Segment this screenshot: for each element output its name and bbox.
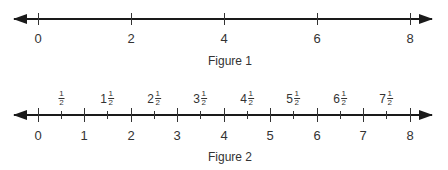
figure-1: 0 2 4 6 8 Figure 1	[0, 0, 448, 75]
half-label: 312	[193, 90, 207, 107]
arrow-right-icon	[419, 110, 433, 120]
tick	[131, 108, 132, 122]
tick-label: 3	[173, 128, 180, 143]
tick	[363, 108, 364, 122]
tick-label: 5	[266, 128, 273, 143]
figure-caption: Figure 2	[208, 150, 252, 164]
tick-label: 2	[127, 128, 134, 143]
figure-caption: Figure 1	[208, 54, 252, 68]
half-tick	[340, 111, 341, 119]
tick	[84, 108, 85, 122]
tick	[177, 108, 178, 122]
tick	[410, 108, 411, 122]
half-tick	[386, 111, 387, 119]
half-tick	[107, 111, 108, 119]
tick-label: 2	[127, 31, 134, 46]
tick-label: 0	[34, 31, 41, 46]
tick-label: 0	[34, 128, 41, 143]
tick-label: 1	[80, 128, 87, 143]
figure-2: 12 112 212 312 412 512 612 712 0 1 2 3 4…	[0, 85, 448, 170]
tick	[317, 108, 318, 122]
tick-label: 8	[406, 128, 413, 143]
half-tick	[200, 111, 201, 119]
tick	[410, 13, 411, 25]
tick	[224, 108, 225, 122]
half-label: 12	[58, 90, 65, 107]
tick-label: 6	[313, 128, 320, 143]
half-tick	[61, 111, 62, 119]
half-tick	[247, 111, 248, 119]
tick-label: 6	[313, 31, 320, 46]
tick-label: 7	[359, 128, 366, 143]
half-label: 612	[333, 90, 347, 107]
half-label: 412	[240, 90, 254, 107]
half-tick	[293, 111, 294, 119]
tick	[224, 13, 225, 25]
tick	[38, 108, 39, 122]
half-label: 712	[379, 90, 393, 107]
number-line-2	[14, 114, 432, 116]
tick	[270, 108, 271, 122]
tick-label: 4	[220, 128, 227, 143]
half-label: 112	[100, 90, 114, 107]
tick	[131, 13, 132, 25]
number-line-1	[14, 18, 432, 20]
tick-label: 4	[220, 31, 227, 46]
half-tick	[154, 111, 155, 119]
half-label: 512	[286, 90, 300, 107]
arrow-right-icon	[419, 14, 433, 24]
tick	[317, 13, 318, 25]
tick	[38, 13, 39, 25]
half-label: 212	[147, 90, 161, 107]
tick-label: 8	[406, 31, 413, 46]
